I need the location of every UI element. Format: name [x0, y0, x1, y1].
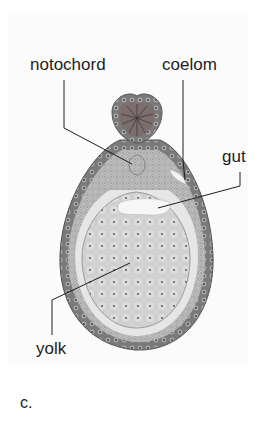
notochord-structure	[129, 155, 145, 175]
neural-tube	[112, 94, 162, 143]
figure-caption: c.	[20, 395, 32, 411]
label-notochord: notochord	[30, 56, 106, 73]
label-yolk: yolk	[36, 340, 66, 357]
label-gut: gut	[222, 148, 246, 165]
label-coelom: coelom	[162, 56, 217, 73]
